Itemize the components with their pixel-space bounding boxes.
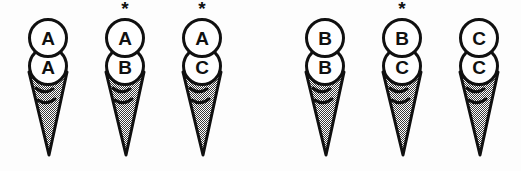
cone-graphic-cc: C C bbox=[439, 0, 519, 171]
top-scoop-letter: B bbox=[318, 28, 332, 49]
cone-ab: * A B bbox=[85, 0, 165, 171]
top-scoop-letter: A bbox=[195, 28, 209, 49]
top-scoop-letter: A bbox=[118, 28, 132, 49]
bottom-scoop-letter: C bbox=[195, 57, 209, 78]
cone-graphic-aa: A A bbox=[8, 0, 88, 171]
cone-group-b: B B * B C bbox=[285, 0, 521, 171]
bottom-scoop-letter: C bbox=[472, 57, 486, 78]
cone-ac: * A C bbox=[162, 0, 242, 171]
cone-graphic-bc: B C bbox=[362, 0, 442, 171]
cone-aa: A A bbox=[8, 0, 88, 171]
ice-cream-cone-figure: A A * A B bbox=[0, 0, 521, 171]
cone-bc: * B C bbox=[362, 0, 442, 171]
bottom-scoop-letter: C bbox=[395, 57, 409, 78]
cone-bb: B B bbox=[285, 0, 365, 171]
top-scoop-letter: C bbox=[472, 28, 486, 49]
cone-graphic-ab: A B bbox=[85, 0, 165, 171]
cone-cc: C C bbox=[439, 0, 519, 171]
cone-group-a: A A * A B bbox=[0, 0, 245, 171]
top-scoop-letter: A bbox=[41, 28, 55, 49]
bottom-scoop-letter: A bbox=[41, 57, 55, 78]
bottom-scoop-letter: B bbox=[318, 57, 332, 78]
bottom-scoop-letter: B bbox=[118, 57, 132, 78]
cone-graphic-bb: B B bbox=[285, 0, 365, 171]
top-scoop-letter: B bbox=[395, 28, 409, 49]
cone-graphic-ac: A C bbox=[162, 0, 242, 171]
